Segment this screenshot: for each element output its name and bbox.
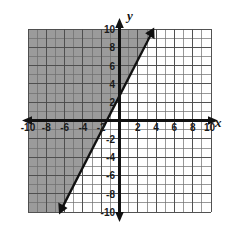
- x-tick-label: -10: [21, 122, 36, 133]
- y-tick-label: -2: [106, 134, 115, 145]
- y-tick-label: 10: [104, 24, 116, 35]
- y-axis-arrow-up: [115, 18, 124, 28]
- y-tick-label: -8: [106, 189, 115, 200]
- y-tick-label: -4: [106, 152, 115, 163]
- x-tick-label: 10: [204, 122, 216, 133]
- y-tick-label: 8: [109, 42, 115, 53]
- coordinate-graph: -10 -8 -6 -4 -2 2 4 6 8 10 10 8 6 4 2 -2…: [0, 0, 234, 227]
- x-tick-label: 8: [190, 122, 196, 133]
- x-tick-label: -2: [97, 122, 106, 133]
- x-tick-label: 6: [172, 122, 178, 133]
- x-axis-label: x: [214, 115, 222, 130]
- y-tick-label: 2: [109, 97, 115, 108]
- x-tick-label: -4: [78, 122, 87, 133]
- y-axis-arrow-down: [115, 212, 124, 222]
- x-tick-label: -6: [60, 122, 69, 133]
- y-tick-label: 6: [109, 61, 115, 72]
- x-tick-label: -8: [42, 122, 51, 133]
- y-tick-label: -10: [101, 207, 116, 218]
- x-tick-label: 2: [135, 122, 141, 133]
- y-axis-label: y: [125, 8, 133, 23]
- graph-canvas: -10 -8 -6 -4 -2 2 4 6 8 10 10 8 6 4 2 -2…: [0, 0, 234, 227]
- y-tick-label: -6: [106, 170, 115, 181]
- x-tick-label: 4: [153, 122, 159, 133]
- y-tick-label: 4: [109, 79, 115, 90]
